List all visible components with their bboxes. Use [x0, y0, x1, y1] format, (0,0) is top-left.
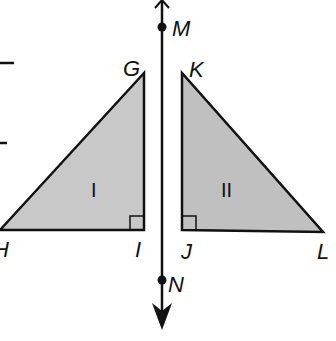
label-H: H [0, 237, 9, 262]
point-M [158, 23, 167, 32]
triangle-I [0, 73, 144, 230]
triangle-I-roman-label: I [91, 179, 97, 201]
label-G: G [123, 56, 140, 81]
point-N [158, 276, 167, 285]
triangle-II [182, 73, 323, 232]
label-K: K [189, 57, 205, 82]
label-J: J [180, 239, 193, 264]
triangle-II-roman-label: II [221, 179, 232, 201]
label-L: L [317, 239, 329, 264]
label-N: N [168, 272, 184, 297]
label-M: M [172, 16, 191, 41]
reflection-diagram: M N G H I K J L I II [0, 0, 336, 341]
label-I: I [135, 237, 141, 262]
